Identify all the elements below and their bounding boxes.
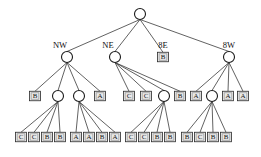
tree-edge	[115, 63, 164, 91]
tree-edge	[212, 102, 226, 133]
tree-edge	[58, 102, 60, 133]
tree-leaf-node[interactable]: B	[30, 91, 41, 101]
tree-node-circle[interactable]	[62, 52, 73, 63]
tree-leaf-node[interactable]: B	[158, 52, 169, 62]
leaf-label: B	[155, 133, 160, 141]
decision-tree-figure: BBACCBAAACCBBAABACCBBBCBB NWNE8E8W	[0, 0, 261, 157]
leaf-label: A	[193, 92, 198, 100]
tree-node-circle[interactable]	[207, 91, 218, 102]
leaf-label: C	[129, 133, 134, 141]
tree-leaf-node[interactable]: A	[110, 132, 121, 142]
tree-edge	[115, 20, 140, 52]
tree-edge	[67, 63, 79, 91]
tree-leaf-node[interactable]: C	[29, 132, 40, 142]
tree-edge	[164, 102, 170, 133]
tree-node-circle[interactable]	[74, 91, 85, 102]
tree-edge	[140, 20, 229, 52]
tree-edge	[115, 63, 146, 92]
leaf-label: C	[127, 92, 132, 100]
tree-leaf-node[interactable]: B	[175, 91, 186, 101]
leaf-label: B	[45, 133, 50, 141]
leaf-label: A	[225, 92, 230, 100]
tree-edge	[67, 63, 100, 92]
tree-node-circle[interactable]	[159, 91, 170, 102]
leaf-label: A	[97, 92, 102, 100]
leaf-label: B	[58, 133, 63, 141]
tree-leaf-node[interactable]: B	[208, 132, 219, 142]
node-name-label: 8E	[158, 40, 167, 50]
tree-edge	[200, 102, 212, 133]
tree-node-circle[interactable]	[224, 52, 235, 63]
tree-edge	[196, 63, 229, 92]
tree-node-circle[interactable]	[53, 91, 64, 102]
tree-edge	[157, 102, 164, 133]
node-name-label: NW	[53, 40, 67, 50]
leaf-label: C	[19, 133, 24, 141]
tree-edge	[212, 102, 213, 133]
leaf-label: B	[33, 92, 38, 100]
leaf-label: C	[32, 133, 37, 141]
node-name-label: NE	[102, 40, 113, 50]
leaf-label: B	[211, 133, 216, 141]
tree-edge	[228, 63, 229, 92]
tree-leaf-node[interactable]: B	[97, 132, 108, 142]
leaf-label: B	[161, 53, 166, 61]
tree-edge	[79, 102, 102, 133]
tree-leaf-node[interactable]: B	[152, 132, 163, 142]
tree-edge	[115, 63, 180, 92]
tree-leaf-node[interactable]: A	[191, 91, 202, 101]
tree-edge	[34, 102, 58, 133]
tree-edge	[229, 63, 243, 92]
tree-leaf-node[interactable]: C	[126, 132, 137, 142]
leaf-label: A	[86, 133, 91, 141]
tree-node-circle[interactable]	[135, 9, 146, 20]
tree-leaf-node[interactable]: C	[195, 132, 206, 142]
leaf-label: B	[100, 133, 105, 141]
label-layer: NWNE8E8W	[53, 40, 235, 51]
tree-leaf-node[interactable]: C	[16, 132, 27, 142]
leaf-label: B	[178, 92, 183, 100]
edge-layer	[21, 20, 243, 133]
tree-leaf-node[interactable]: B	[55, 132, 66, 142]
tree-leaf-node[interactable]: C	[124, 91, 135, 101]
tree-leaf-node[interactable]: C	[139, 132, 150, 142]
leaf-label: C	[144, 92, 149, 100]
tree-leaf-node[interactable]: A	[95, 91, 106, 101]
leaf-label: B	[185, 133, 190, 141]
leaf-label: A	[240, 92, 245, 100]
tree-edge	[76, 102, 79, 133]
tree-leaf-node[interactable]: A	[84, 132, 95, 142]
tree-edge	[131, 102, 164, 133]
leaf-label: B	[168, 133, 173, 141]
tree-leaf-node[interactable]: A	[223, 91, 234, 101]
leaf-label: C	[198, 133, 203, 141]
leaf-label: A	[73, 133, 78, 141]
tree-node-circle[interactable]	[110, 52, 121, 63]
leaf-label: C	[142, 133, 147, 141]
tree-leaf-node[interactable]: B	[221, 132, 232, 142]
tree-leaf-node[interactable]: A	[71, 132, 82, 142]
tree-leaf-node[interactable]: A	[238, 91, 249, 101]
tree-leaf-node[interactable]: B	[165, 132, 176, 142]
tree-leaf-node[interactable]: B	[42, 132, 53, 142]
leaf-label: A	[112, 133, 117, 141]
tree-leaf-node[interactable]: C	[141, 91, 152, 101]
tree-leaf-node[interactable]: B	[182, 132, 193, 142]
tree-edge	[212, 63, 229, 91]
leaf-label: B	[224, 133, 229, 141]
tree-edge	[187, 102, 212, 133]
node-name-label: 8W	[223, 40, 235, 50]
tree-canvas: BBACCBAAACCBBAABACCBBBCBB NWNE8E8W	[0, 0, 261, 157]
